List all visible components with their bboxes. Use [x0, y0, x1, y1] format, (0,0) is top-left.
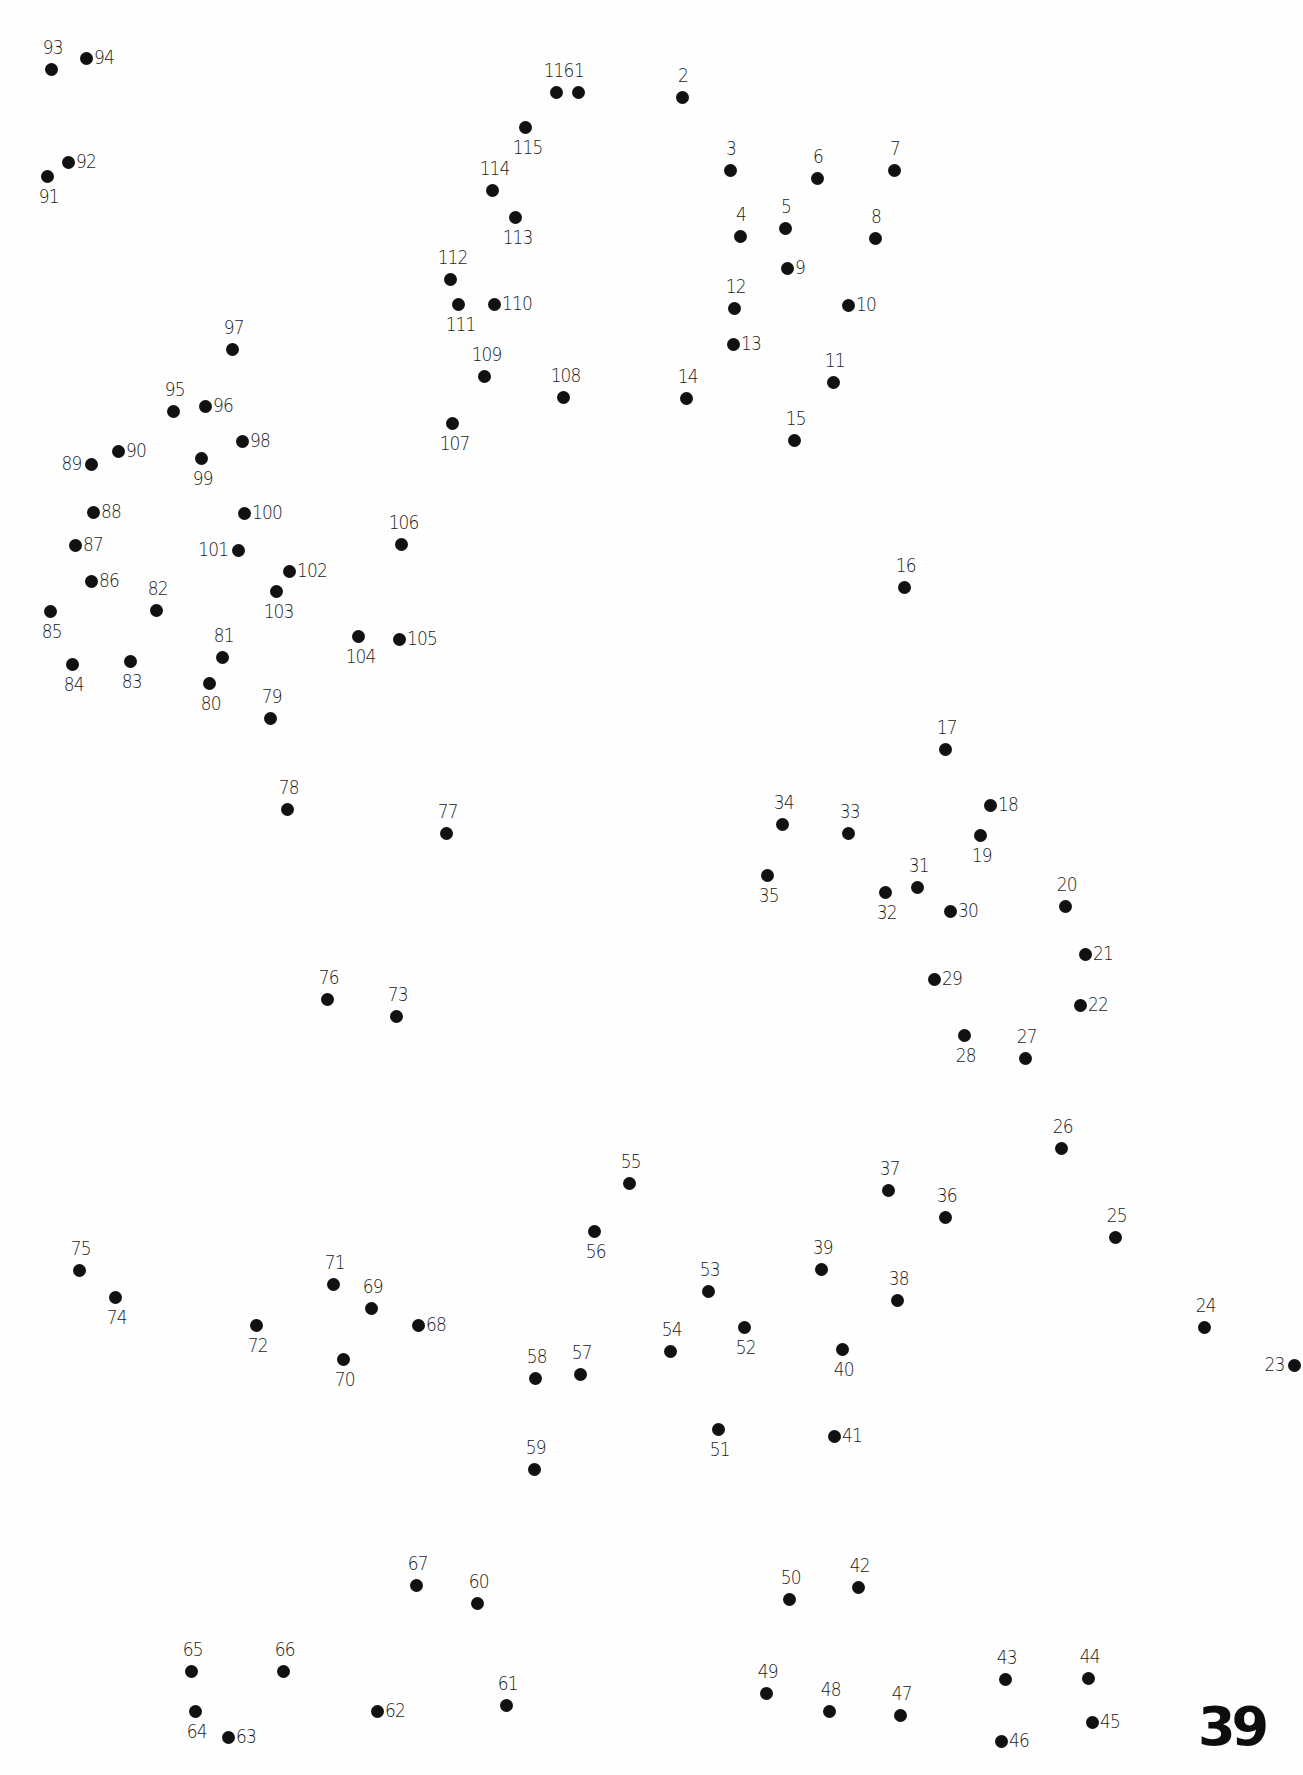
dot-icon[interactable]: [724, 164, 737, 177]
dot-icon[interactable]: [488, 298, 501, 311]
dot-icon[interactable]: [999, 1673, 1012, 1686]
dot-icon[interactable]: [185, 1665, 198, 1678]
dot-icon[interactable]: [509, 211, 522, 224]
dot-icon[interactable]: [734, 230, 747, 243]
dot-icon[interactable]: [412, 1319, 425, 1332]
dot-icon[interactable]: [395, 538, 408, 551]
dot-icon[interactable]: [150, 604, 163, 617]
dot-icon[interactable]: [811, 172, 824, 185]
dot-icon[interactable]: [888, 164, 901, 177]
dot-icon[interactable]: [393, 633, 406, 646]
dot-icon[interactable]: [1082, 1672, 1095, 1685]
dot-icon[interactable]: [528, 1463, 541, 1476]
dot-icon[interactable]: [85, 575, 98, 588]
dot-icon[interactable]: [939, 1211, 952, 1224]
dot-icon[interactable]: [471, 1597, 484, 1610]
dot-icon[interactable]: [842, 827, 855, 840]
dot-icon[interactable]: [529, 1372, 542, 1385]
dot-icon[interactable]: [519, 121, 532, 134]
dot-icon[interactable]: [444, 273, 457, 286]
dot-icon[interactable]: [87, 506, 100, 519]
dot-icon[interactable]: [727, 338, 740, 351]
dot-icon[interactable]: [680, 392, 693, 405]
dot-icon[interactable]: [478, 370, 491, 383]
dot-icon[interactable]: [882, 1184, 895, 1197]
dot-icon[interactable]: [45, 63, 58, 76]
dot-icon[interactable]: [781, 262, 794, 275]
dot-icon[interactable]: [1198, 1321, 1211, 1334]
dot-icon[interactable]: [588, 1225, 601, 1238]
dot-icon[interactable]: [226, 343, 239, 356]
dot-icon[interactable]: [1019, 1052, 1032, 1065]
dot-icon[interactable]: [277, 1665, 290, 1678]
dot-icon[interactable]: [85, 458, 98, 471]
dot-icon[interactable]: [783, 1593, 796, 1606]
dot-icon[interactable]: [199, 400, 212, 413]
dot-icon[interactable]: [1079, 948, 1092, 961]
dot-icon[interactable]: [1086, 1716, 1099, 1729]
dot-icon[interactable]: [852, 1581, 865, 1594]
dot-icon[interactable]: [112, 445, 125, 458]
dot-icon[interactable]: [779, 222, 792, 235]
dot-icon[interactable]: [1059, 900, 1072, 913]
dot-icon[interactable]: [898, 581, 911, 594]
dot-icon[interactable]: [776, 818, 789, 831]
dot-icon[interactable]: [842, 299, 855, 312]
dot-icon[interactable]: [486, 184, 499, 197]
dot-icon[interactable]: [167, 405, 180, 418]
dot-icon[interactable]: [1109, 1231, 1122, 1244]
dot-icon[interactable]: [911, 881, 924, 894]
dot-icon[interactable]: [410, 1579, 423, 1592]
dot-icon[interactable]: [928, 973, 941, 986]
dot-icon[interactable]: [869, 232, 882, 245]
dot-icon[interactable]: [321, 993, 334, 1006]
dot-icon[interactable]: [195, 452, 208, 465]
dot-icon[interactable]: [236, 435, 249, 448]
dot-icon[interactable]: [728, 302, 741, 315]
dot-icon[interactable]: [557, 391, 570, 404]
dot-icon[interactable]: [203, 677, 216, 690]
dot-icon[interactable]: [827, 376, 840, 389]
dot-icon[interactable]: [452, 298, 465, 311]
dot-icon[interactable]: [80, 52, 93, 65]
dot-icon[interactable]: [712, 1423, 725, 1436]
dot-icon[interactable]: [738, 1321, 751, 1334]
dot-icon[interactable]: [1074, 999, 1087, 1012]
dot-icon[interactable]: [44, 605, 57, 618]
dot-icon[interactable]: [974, 829, 987, 842]
dot-icon[interactable]: [623, 1177, 636, 1190]
dot-icon[interactable]: [283, 565, 296, 578]
dot-icon[interactable]: [365, 1302, 378, 1315]
dot-icon[interactable]: [371, 1705, 384, 1718]
dot-icon[interactable]: [572, 86, 585, 99]
dot-icon[interactable]: [1288, 1359, 1301, 1372]
dot-icon[interactable]: [836, 1343, 849, 1356]
dot-icon[interactable]: [828, 1430, 841, 1443]
dot-icon[interactable]: [124, 655, 137, 668]
dot-icon[interactable]: [894, 1709, 907, 1722]
dot-icon[interactable]: [788, 434, 801, 447]
dot-icon[interactable]: [440, 827, 453, 840]
dot-icon[interactable]: [574, 1368, 587, 1381]
dot-icon[interactable]: [73, 1264, 86, 1277]
dot-icon[interactable]: [879, 886, 892, 899]
dot-icon[interactable]: [550, 86, 563, 99]
dot-icon[interactable]: [761, 869, 774, 882]
dot-icon[interactable]: [41, 170, 54, 183]
dot-icon[interactable]: [232, 544, 245, 557]
dot-icon[interactable]: [264, 712, 277, 725]
dot-icon[interactable]: [891, 1294, 904, 1307]
dot-icon[interactable]: [281, 803, 294, 816]
dot-icon[interactable]: [109, 1291, 122, 1304]
dot-icon[interactable]: [676, 91, 689, 104]
dot-icon[interactable]: [939, 743, 952, 756]
dot-icon[interactable]: [446, 417, 459, 430]
dot-icon[interactable]: [238, 507, 251, 520]
dot-icon[interactable]: [823, 1705, 836, 1718]
dot-icon[interactable]: [327, 1278, 340, 1291]
dot-icon[interactable]: [944, 905, 957, 918]
dot-icon[interactable]: [270, 585, 283, 598]
dot-icon[interactable]: [702, 1285, 715, 1298]
dot-icon[interactable]: [958, 1029, 971, 1042]
dot-icon[interactable]: [500, 1699, 513, 1712]
